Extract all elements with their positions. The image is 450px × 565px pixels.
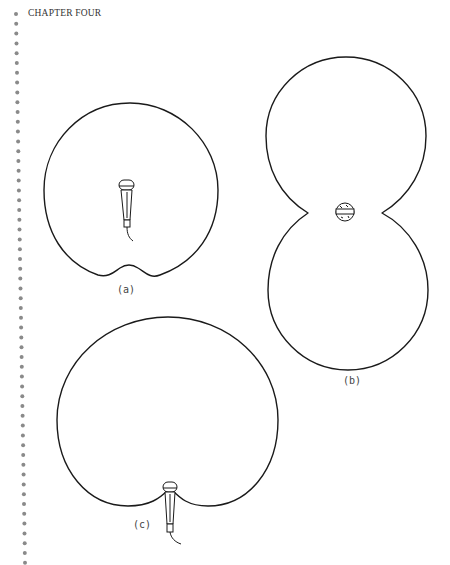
microphone-icon-b: [336, 203, 354, 221]
figure-label-b: (b): [343, 375, 361, 386]
cardioid-pattern-outline: [57, 317, 278, 506]
figure-label-a: (a): [117, 284, 135, 295]
microphone-icon-a: [119, 180, 134, 241]
figure-label-c: (c): [133, 519, 151, 530]
microphone-icon-c: [163, 482, 181, 544]
polar-pattern-figures: [0, 0, 450, 565]
